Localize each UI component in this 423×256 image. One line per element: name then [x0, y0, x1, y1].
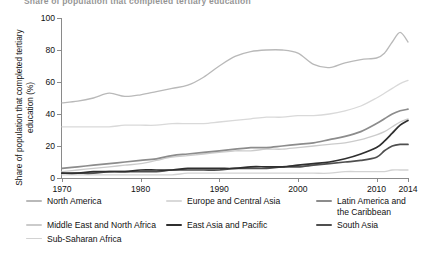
x-tick	[408, 178, 409, 182]
x-tick-label: 1980	[131, 184, 150, 194]
y-tick	[57, 146, 61, 147]
legend-item[interactable]: Latin America and the Caribbean	[316, 196, 418, 217]
x-tick	[62, 178, 63, 182]
y-tick-label: 40	[45, 109, 55, 119]
x-tick	[298, 178, 299, 182]
legend-label: East Asia and Pacific	[187, 220, 267, 231]
x-tick-label: 2010	[367, 184, 386, 194]
y-tick	[57, 82, 61, 83]
series-line	[62, 80, 408, 127]
legend-swatch-icon	[316, 224, 332, 226]
x-axis-line	[61, 178, 408, 179]
legend-swatch-icon	[26, 238, 42, 240]
legend-label: Latin America and the Caribbean	[337, 196, 418, 217]
legend-swatch-icon	[26, 200, 42, 202]
legend-item[interactable]: Middle East and North Africa	[26, 220, 166, 231]
x-tick	[141, 178, 142, 182]
legend-label: Europe and Central Asia	[187, 196, 280, 207]
y-tick	[57, 114, 61, 115]
series-line	[62, 120, 408, 173]
legend-swatch-icon	[166, 224, 182, 226]
legend-item[interactable]: South Asia	[316, 220, 418, 231]
legend-swatch-icon	[26, 224, 42, 226]
legend-swatch-icon	[166, 200, 182, 202]
y-tick	[57, 178, 61, 179]
legend-swatch-icon	[316, 200, 332, 202]
y-tick-label: 100	[41, 13, 55, 23]
x-tick	[219, 178, 220, 182]
series-line	[62, 109, 408, 168]
y-tick-label: 0	[50, 173, 55, 183]
tertiary-education-line-chart: Share of population that completed terti…	[0, 0, 423, 256]
legend-label: North America	[47, 196, 101, 207]
series-line	[62, 32, 408, 102]
x-tick-label: 1990	[210, 184, 229, 194]
plot-area: 020406080100 197019801990200020102014	[62, 18, 408, 178]
chart-legend: North AmericaEurope and Central AsiaLati…	[26, 196, 418, 244]
figure-title: Share of population that completed terti…	[24, 0, 251, 6]
x-tick-label: 1970	[52, 184, 71, 194]
legend-item[interactable]: North America	[26, 196, 166, 217]
y-tick	[57, 18, 61, 19]
legend-label: Sub-Saharan Africa	[47, 234, 122, 245]
x-tick	[377, 178, 378, 182]
legend-item[interactable]: Europe and Central Asia	[166, 196, 316, 217]
x-tick-label: 2000	[288, 184, 307, 194]
legend-label: South Asia	[337, 220, 378, 231]
y-tick-label: 80	[45, 45, 55, 55]
legend-item[interactable]: Sub-Saharan Africa	[26, 234, 166, 245]
x-tick-label: 2014	[398, 184, 417, 194]
legend-label: Middle East and North Africa	[47, 220, 156, 231]
y-axis-title: Share of population that completed terti…	[14, 23, 35, 193]
legend-item[interactable]: East Asia and Pacific	[166, 220, 316, 231]
series-lines	[62, 18, 408, 178]
y-tick	[57, 50, 61, 51]
y-tick-label: 20	[45, 141, 55, 151]
y-tick-label: 60	[45, 77, 55, 87]
